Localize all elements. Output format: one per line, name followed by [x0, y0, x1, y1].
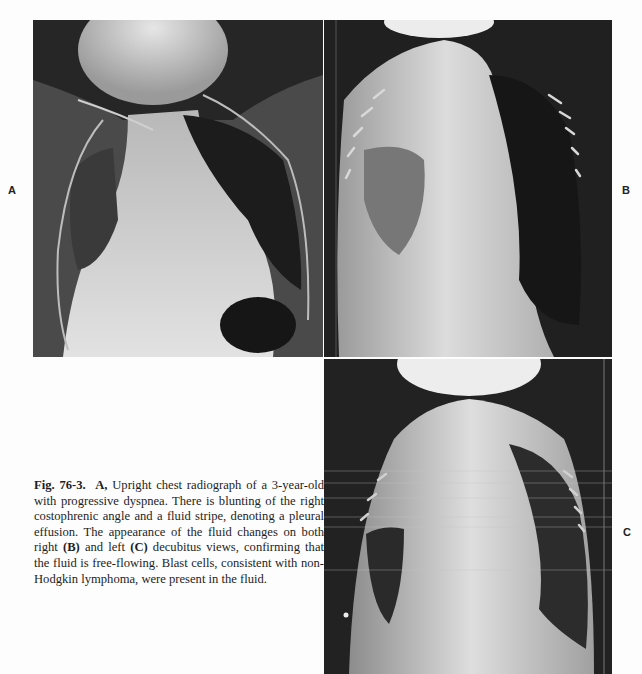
radiograph-panel-b	[324, 20, 612, 357]
figure-number: Fig. 76-3.	[34, 478, 86, 492]
xray-image-a	[33, 20, 323, 357]
radiograph-panel-a	[33, 20, 323, 357]
panel-label-a: A	[8, 184, 16, 196]
figure-caption: Fig. 76-3. A, Upright chest radiograph o…	[34, 478, 324, 587]
panel-label-b: B	[622, 184, 630, 196]
caption-text-2: and left	[80, 540, 130, 554]
panel-label-c: C	[623, 526, 631, 538]
caption-lead-label: A,	[95, 478, 107, 492]
radiograph-panel-c	[324, 359, 612, 674]
xray-image-c	[324, 359, 612, 674]
caption-ref-b: (B)	[63, 540, 80, 554]
xray-image-b	[324, 20, 612, 357]
caption-ref-c: (C)	[130, 540, 147, 554]
